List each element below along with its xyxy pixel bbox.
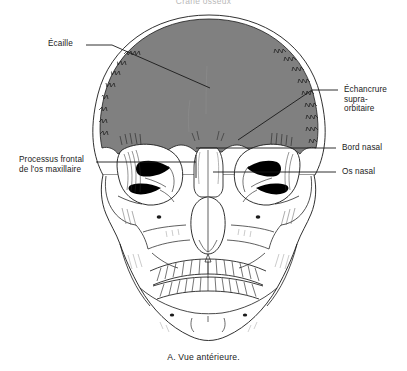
label-processus-frontal: Processus frontal de l'os maxillaire <box>19 155 84 174</box>
label-bord-nasal-text: Bord nasal <box>342 143 382 152</box>
skull-drawing <box>86 15 338 341</box>
label-ecaille-text: Écaille <box>48 39 73 48</box>
figure-caption: A. Vue antérieure. <box>0 352 407 362</box>
skull-anterior-diagram <box>0 0 407 371</box>
label-os-nasal: Os nasal <box>342 167 375 177</box>
label-bord-nasal: Bord nasal <box>342 143 382 153</box>
label-echancrure-line3: orbitaire <box>344 104 387 114</box>
mental-foramen-left <box>170 313 174 316</box>
infraorbital-foramen-left <box>157 215 162 218</box>
mental-foramen-right <box>243 313 247 316</box>
label-echancrure-supra-orbitaire: Échancrure supra- orbitaire <box>344 85 387 114</box>
label-echancrure-line2: supra- <box>344 95 387 105</box>
infraorbital-foramen-right <box>256 215 261 218</box>
label-echancrure-line1: Échancrure <box>344 85 387 95</box>
label-ecaille: Écaille <box>48 39 73 49</box>
label-os-nasal-text: Os nasal <box>342 167 375 176</box>
label-processus-frontal-line2: de l'os maxillaire <box>19 165 84 175</box>
label-processus-frontal-line1: Processus frontal <box>19 155 84 165</box>
